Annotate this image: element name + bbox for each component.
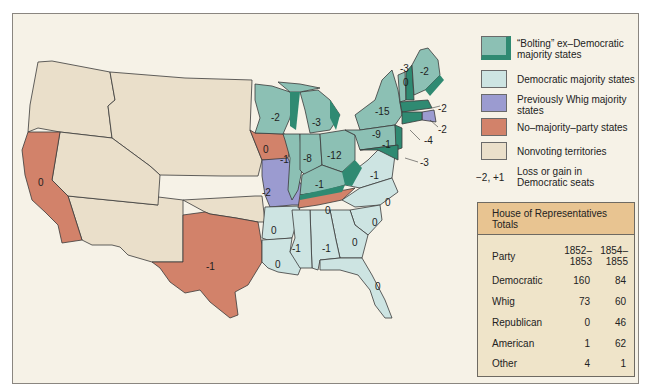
label-iowa: 0 <box>263 144 269 155</box>
label-illinois: -1 <box>280 154 289 165</box>
col-header-1852: 1852– 1853 <box>558 245 592 267</box>
label-mississippi: -1 <box>292 243 301 254</box>
label-south-carolina: 0 <box>372 217 378 228</box>
state-rhode-island <box>422 110 436 122</box>
seat-change-key: −2, +1 <box>476 172 504 183</box>
label-massachusetts: -2 <box>438 103 447 114</box>
row-value: 4 <box>558 358 590 369</box>
label-north-carolina: 0 <box>385 197 391 208</box>
legend-label: “Bolting” ex–Democratic majority states <box>517 38 637 60</box>
label-maryland: -3 <box>420 157 429 168</box>
label-new-york: -15 <box>375 106 390 117</box>
label-new-jersey: -1 <box>382 139 391 150</box>
row-party: Other <box>492 358 517 369</box>
label-california: 0 <box>38 177 44 188</box>
state-wisconsin <box>255 84 293 134</box>
label-vermont: -3 <box>400 63 409 74</box>
row-party: American <box>492 338 534 349</box>
row-party: Whig <box>492 296 515 307</box>
legend-label: Previously Whig majority states <box>517 94 627 116</box>
label-tennessee: 0 <box>325 205 331 216</box>
label-texas: -1 <box>206 261 215 272</box>
label-rhode-island: -2 <box>438 124 447 135</box>
territory-new-mexico <box>68 196 183 262</box>
label-maine: -2 <box>420 66 429 77</box>
label-indiana: -8 <box>303 153 312 164</box>
row-value: 1 <box>558 338 590 349</box>
row-value: 73 <box>558 296 590 307</box>
state-new-york <box>355 70 402 130</box>
legend-label: Loss or gain in Democratic seats <box>517 166 627 188</box>
no-majority-swatch <box>481 118 507 136</box>
row-value: 46 <box>594 317 626 328</box>
table-title: House of Representatives Totals <box>492 208 632 230</box>
row-value: 60 <box>594 296 626 307</box>
state-connecticut <box>402 112 422 124</box>
legend-label: No–majority–party states <box>517 122 637 133</box>
label-connecticut: -4 <box>424 135 433 146</box>
label-michigan: -3 <box>312 117 321 128</box>
label-pennsylvania: -9 <box>372 129 381 140</box>
whig-swatch <box>481 94 507 112</box>
house-totals-table: House of Representatives Totals Party 18… <box>477 202 635 377</box>
territory-oregon-washington <box>28 61 115 138</box>
row-party: Republican <box>492 317 542 328</box>
col-header-party: Party <box>492 251 515 262</box>
col-header-1854: 1854– 1855 <box>594 245 628 267</box>
table-header: House of Representatives Totals <box>478 203 634 235</box>
row-value: 160 <box>558 275 590 286</box>
row-value: 84 <box>594 275 626 286</box>
label-missouri: -2 <box>262 187 271 198</box>
label-kentucky: -1 <box>315 179 324 190</box>
label-arkansas: 0 <box>271 225 277 236</box>
state-massachusetts <box>400 100 432 112</box>
row-value: 0 <box>558 317 590 328</box>
legend-label: Nonvoting territories <box>517 146 637 157</box>
legend-label: Democratic majority states <box>517 74 637 85</box>
row-value: 1 <box>594 358 626 369</box>
label-florida: 0 <box>375 281 381 292</box>
row-value: 62 <box>594 338 626 349</box>
label-new-hampshire: 0 <box>403 77 409 88</box>
nonvoting-swatch <box>481 142 507 160</box>
label-georgia: 0 <box>352 237 358 248</box>
label-ohio: -12 <box>327 150 342 161</box>
row-party: Democratic <box>492 275 543 286</box>
bolting-swatch <box>481 36 511 60</box>
label-louisiana: 0 <box>275 259 281 270</box>
democratic-swatch <box>481 70 507 88</box>
state-florida <box>320 258 392 318</box>
label-virginia: -1 <box>370 170 379 181</box>
label-alabama: -1 <box>322 243 331 254</box>
label-wisconsin: -2 <box>271 112 280 123</box>
